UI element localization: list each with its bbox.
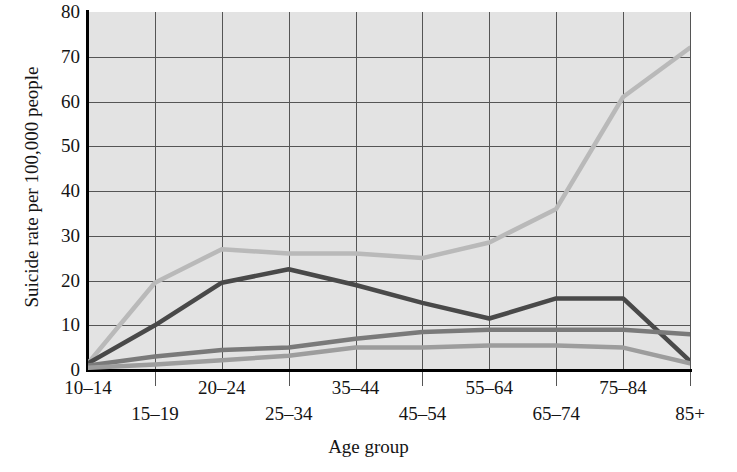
- x-tick-label: 85+: [675, 403, 705, 424]
- x-tick-label: 35–44: [332, 377, 380, 398]
- chart-figure: Suicide rate per 100,000 people 01020304…: [0, 0, 737, 472]
- x-axis-title: Age group: [0, 436, 737, 458]
- x-tick-label: 10–14: [64, 377, 112, 398]
- series-lines: [88, 12, 690, 370]
- x-tick-label: 45–54: [399, 403, 447, 424]
- grid-line-vertical: [690, 12, 691, 370]
- y-tick-label: 60: [2, 92, 80, 111]
- y-tick-label: 80: [2, 2, 80, 21]
- y-tick-label: 30: [2, 226, 80, 245]
- series-line-series-1-lightest: [88, 48, 690, 364]
- series-line-series-4-light: [88, 345, 690, 367]
- x-tick-label: 55–64: [466, 377, 514, 398]
- x-tick-label: 15–19: [131, 403, 179, 424]
- y-tick-label: 70: [2, 47, 80, 66]
- x-tick-label: 75–84: [599, 377, 647, 398]
- y-tick-label: 20: [2, 271, 80, 290]
- x-axis-tick-mark: [690, 372, 691, 386]
- x-axis-tick-mark: [155, 372, 156, 386]
- x-tick-label: 25–34: [265, 403, 313, 424]
- x-tick-label: 65–74: [532, 403, 580, 424]
- x-axis-tick-mark: [289, 372, 290, 386]
- y-tick-label: 10: [2, 315, 80, 334]
- y-tick-label: 40: [2, 181, 80, 200]
- x-axis-tick-mark: [556, 372, 557, 386]
- y-tick-label: 50: [2, 136, 80, 155]
- x-axis-tick-mark: [422, 372, 423, 386]
- x-tick-label: 20–24: [198, 377, 246, 398]
- y-axis-tick-labels: 01020304050607080: [0, 0, 80, 382]
